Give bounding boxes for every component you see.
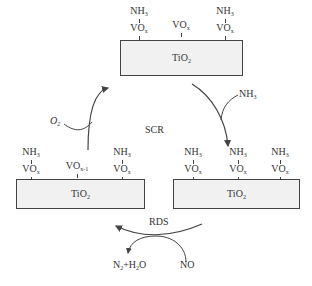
right-site-1: NH3 VOx <box>178 147 208 181</box>
left-catalyst-box: TiO2 <box>16 179 145 209</box>
right-site-3: NH3 VOx <box>265 147 295 181</box>
nh3-reactant: NH3 <box>239 89 256 102</box>
right-site-2: NH3 VOx <box>223 147 253 181</box>
top-site-1: NH3 VOx <box>124 6 154 40</box>
right-catalyst-box: TiO2 <box>173 179 300 209</box>
no-reactant: NO <box>180 260 194 270</box>
top-catalyst-box: TiO2 <box>120 40 243 76</box>
products-label: N2+H2O <box>113 260 146 273</box>
o2-reactant: O2 <box>50 116 60 129</box>
top-site-2: VOx <box>166 6 196 37</box>
arrow-adsorption <box>192 84 228 146</box>
left-site-1: NH3 VOx <box>16 147 46 181</box>
rds-label: RDS <box>149 217 168 227</box>
left-site-3: NH3 VOx <box>107 147 137 181</box>
cycle-label: SCR <box>145 125 164 135</box>
left-site-2: VOx-1 <box>62 147 92 178</box>
arrow-regeneration <box>88 88 108 150</box>
top-site-3: NH3 VOx <box>210 6 240 40</box>
support-label: TiO2 <box>121 52 242 64</box>
